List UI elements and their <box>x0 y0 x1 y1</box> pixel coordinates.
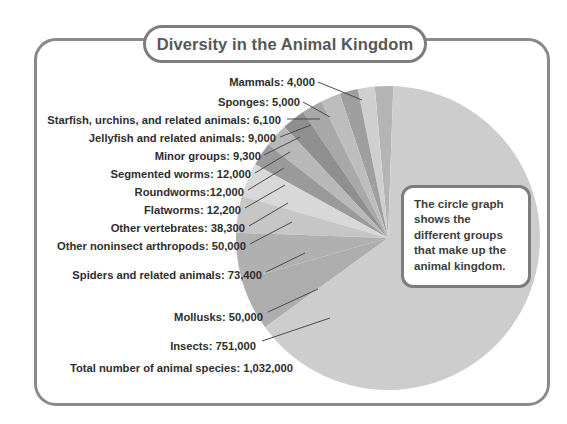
callout-note: The circle graph shows the different gro… <box>401 185 531 288</box>
pie-slice-label: Sponges: 5,000 <box>218 96 300 108</box>
pie-slice-label: Jellyfish and related animals: 9,000 <box>89 132 276 144</box>
pie-slice-label: Insects: 751,000 <box>170 340 256 352</box>
pie-slice-label: Roundworms:12,000 <box>135 186 244 198</box>
pie-slice-label: Mollusks: 50,000 <box>174 311 263 323</box>
chart-title-bubble: Diversity in the Animal Kingdom <box>143 25 427 63</box>
pie-slice-label: Flatworms: 12,200 <box>144 204 241 216</box>
total-species-label: Total number of animal species: 1,032,00… <box>70 362 293 374</box>
pie-slice-label: Segmented worms: 12,000 <box>110 168 251 180</box>
pie-slice-label: Starfish, urchins, and related animals: … <box>47 114 281 126</box>
pie-slice-label: Minor groups: 9,300 <box>155 150 261 162</box>
callout-note-text: The circle graph shows the different gro… <box>414 196 519 273</box>
pie-slice-label: Other vertebrates: 38,300 <box>111 222 245 234</box>
page-title: Diversity in the Animal Kingdom <box>157 35 413 54</box>
pie-slice-label: Other noninsect arthropods: 50,000 <box>57 240 246 252</box>
pie-slice-label: Mammals: 4,000 <box>229 76 315 88</box>
pie-slice-label: Spiders and related animals: 73,400 <box>72 269 262 281</box>
